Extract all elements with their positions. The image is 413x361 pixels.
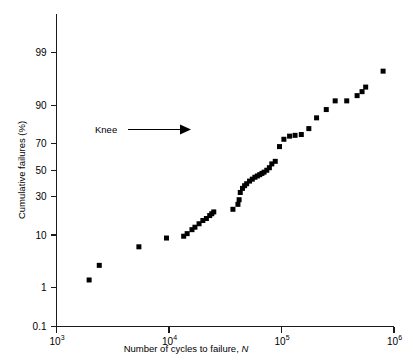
y-tick-label: 90 <box>35 100 47 111</box>
data-point <box>360 89 365 94</box>
data-point <box>355 93 360 98</box>
data-point <box>363 85 368 90</box>
x-tick-exponent: 5 <box>286 334 290 341</box>
y-tick-label: 50 <box>35 165 47 176</box>
data-point <box>136 244 141 249</box>
data-point <box>381 69 386 74</box>
y-axis-title: Cumulative failures (%) <box>16 121 27 219</box>
data-point <box>211 209 216 214</box>
data-point <box>324 107 329 112</box>
x-tick-label: 105 <box>275 334 290 347</box>
x-tick-label: 106 <box>387 334 402 347</box>
x-tick-label: 103 <box>50 334 65 347</box>
data-point <box>306 126 311 131</box>
data-point <box>287 134 292 139</box>
y-tick-label: 99 <box>35 47 47 58</box>
knee-annotation: Knee <box>95 124 191 135</box>
data-point <box>281 137 286 142</box>
y-tick-label: 10 <box>35 230 47 241</box>
x-tick-exponent: 3 <box>61 334 65 341</box>
data-point <box>237 197 242 202</box>
data-point <box>235 202 240 207</box>
x-axis-ticks <box>57 327 395 333</box>
plot-svg: 99907050301010.1 103104105106 Knee Numbe… <box>0 0 413 361</box>
x-axis-title-symbol: N <box>241 343 248 354</box>
data-point <box>277 144 282 149</box>
fatigue-probability-chart: 99907050301010.1 103104105106 Knee Numbe… <box>0 0 413 361</box>
data-point <box>333 98 338 103</box>
knee-label: Knee <box>95 124 117 135</box>
data-point <box>273 159 278 164</box>
y-tick-label: 1 <box>41 282 47 293</box>
y-axis-tick-labels: 99907050301010.1 <box>33 47 47 332</box>
x-tick-exponent: 4 <box>173 334 177 341</box>
y-tick-label: 30 <box>35 191 47 202</box>
data-point <box>314 115 319 120</box>
data-point <box>344 98 349 103</box>
data-point <box>164 236 169 241</box>
x-axis-title: Number of cycles to failure, N <box>124 343 249 354</box>
y-tick-label: 0.1 <box>33 321 47 332</box>
x-tick-exponent: 6 <box>398 334 402 341</box>
knee-arrow-head-icon <box>180 125 191 135</box>
data-point <box>230 207 235 212</box>
y-axis-ticks <box>51 53 57 327</box>
data-point <box>185 231 190 236</box>
data-point <box>97 263 102 268</box>
data-point <box>293 133 298 138</box>
data-point <box>299 132 304 137</box>
y-tick-label: 70 <box>35 138 47 149</box>
data-point <box>87 277 92 282</box>
data-points-layer <box>87 69 386 283</box>
